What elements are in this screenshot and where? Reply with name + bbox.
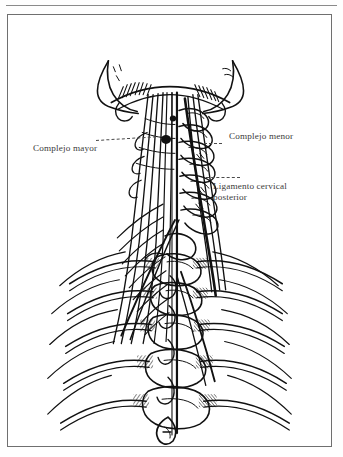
leader-line-ligamento-cervical xyxy=(206,177,240,178)
label-ligamento-line-2: posterior xyxy=(213,192,247,202)
label-complejo-menor: Complejo menor xyxy=(229,131,293,142)
top-divider-rule xyxy=(6,5,337,6)
figure-canvas xyxy=(8,15,331,446)
figure-frame: Complejo mayor Complejo menor Ligamento … xyxy=(7,14,332,447)
label-complejo-mayor: Complejo mayor xyxy=(33,143,97,154)
page-root: Complejo mayor Complejo menor Ligamento … xyxy=(0,0,343,457)
label-ligamento-cervical-posterior: Ligamento cervical posterior xyxy=(213,181,323,203)
label-ligamento-line-1: Ligamento cervical xyxy=(213,181,287,191)
leader-line-complejo-menor xyxy=(204,143,222,144)
anatomy-illustration-svg xyxy=(8,15,331,446)
